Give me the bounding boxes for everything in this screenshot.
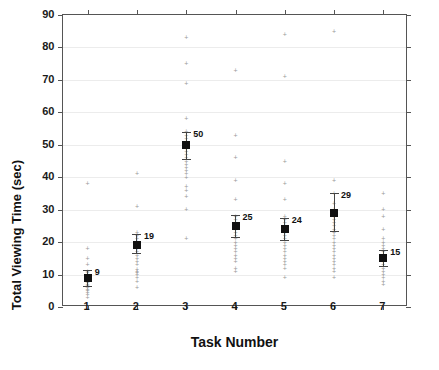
data-point — [233, 253, 238, 258]
data-point — [332, 269, 337, 274]
data-point — [184, 194, 189, 199]
data-point — [184, 236, 189, 241]
data-point — [233, 133, 238, 138]
data-point — [233, 249, 238, 254]
data-point — [381, 191, 386, 196]
gridline — [63, 47, 406, 48]
data-point — [381, 279, 386, 284]
error-bar-cap — [132, 253, 141, 254]
data-point — [184, 116, 189, 121]
mean-value-label: 15 — [390, 247, 400, 257]
data-point — [332, 178, 337, 183]
data-point — [184, 168, 189, 173]
gridline — [63, 80, 406, 81]
gridline — [63, 242, 406, 243]
y-tick-label: 30 — [28, 203, 54, 215]
error-bar-cap — [231, 237, 240, 238]
data-point — [85, 262, 90, 267]
error-bar-cap — [182, 132, 191, 133]
error-bar-cap — [132, 234, 141, 235]
data-point — [134, 204, 139, 209]
data-point — [85, 292, 90, 297]
data-point — [134, 267, 139, 272]
y-tick-mark-right — [406, 242, 411, 243]
mean-value-label: 25 — [243, 212, 253, 222]
y-tick-label: 40 — [28, 170, 54, 182]
gridline — [63, 210, 406, 211]
data-point — [282, 246, 287, 251]
y-tick-mark-right — [406, 307, 411, 308]
y-tick-label: 10 — [28, 268, 54, 280]
y-tick-mark-right — [406, 210, 411, 211]
data-point — [332, 243, 337, 248]
y-tick-label: 80 — [28, 40, 54, 52]
x-tick-label: 2 — [133, 300, 139, 312]
error-bar-cap — [280, 240, 289, 241]
x-tick-mark-top — [285, 10, 286, 15]
plot-area: 9195025242915 — [62, 14, 407, 306]
data-point — [332, 262, 337, 267]
data-point — [184, 184, 189, 189]
data-point — [381, 282, 386, 287]
data-point — [184, 35, 189, 40]
data-point — [282, 159, 287, 164]
data-point — [134, 275, 139, 280]
data-point — [233, 259, 238, 264]
chart-figure: Total Viewing Time (sec) 9195025242915 T… — [0, 0, 439, 370]
data-point — [282, 181, 287, 186]
data-point — [134, 279, 139, 284]
mean-marker — [330, 209, 338, 217]
data-point — [85, 181, 90, 186]
error-bar-cap — [379, 266, 388, 267]
data-point — [85, 290, 90, 295]
y-tick-label: 50 — [28, 138, 54, 150]
data-point — [184, 61, 189, 66]
data-point — [233, 256, 238, 261]
y-tick-mark-right — [406, 80, 411, 81]
data-point — [332, 249, 337, 254]
y-tick-mark — [58, 275, 63, 276]
error-bar-cap — [379, 250, 388, 251]
mean-value-label: 29 — [341, 190, 351, 200]
y-tick-mark — [58, 145, 63, 146]
data-point — [332, 275, 337, 280]
y-tick-mark-right — [406, 15, 411, 16]
y-axis-label-holder: Total Viewing Time (sec) — [22, 14, 23, 306]
data-point — [282, 253, 287, 258]
data-point — [282, 262, 287, 267]
data-point — [381, 275, 386, 280]
error-bar-cap — [182, 159, 191, 160]
data-point — [184, 81, 189, 86]
y-tick-mark — [58, 307, 63, 308]
x-tick-mark-top — [186, 10, 187, 15]
y-tick-mark-right — [406, 112, 411, 113]
mean-marker — [379, 254, 387, 262]
data-point — [233, 243, 238, 248]
x-tick-label: 6 — [330, 300, 336, 312]
data-point — [282, 243, 287, 248]
mean-marker — [281, 225, 289, 233]
data-point — [332, 236, 337, 241]
y-axis-label: Total Viewing Time (sec) — [9, 160, 24, 310]
x-tick-mark-top — [236, 10, 237, 15]
data-point — [282, 275, 287, 280]
data-point — [332, 29, 337, 34]
data-point — [332, 259, 337, 264]
gridline — [63, 145, 406, 146]
y-tick-mark — [58, 112, 63, 113]
data-point — [233, 155, 238, 160]
data-point — [282, 256, 287, 261]
data-point — [282, 259, 287, 264]
data-point — [134, 259, 139, 264]
data-point — [332, 233, 337, 238]
data-point — [332, 266, 337, 271]
x-tick-label: 5 — [281, 300, 287, 312]
error-bar-cap — [83, 286, 92, 287]
error-bar-cap — [280, 218, 289, 219]
x-tick-mark-top — [334, 10, 335, 15]
y-tick-mark-right — [406, 275, 411, 276]
y-tick-mark — [58, 242, 63, 243]
x-tick-label: 3 — [182, 300, 188, 312]
data-point — [85, 287, 90, 292]
y-tick-mark — [58, 177, 63, 178]
